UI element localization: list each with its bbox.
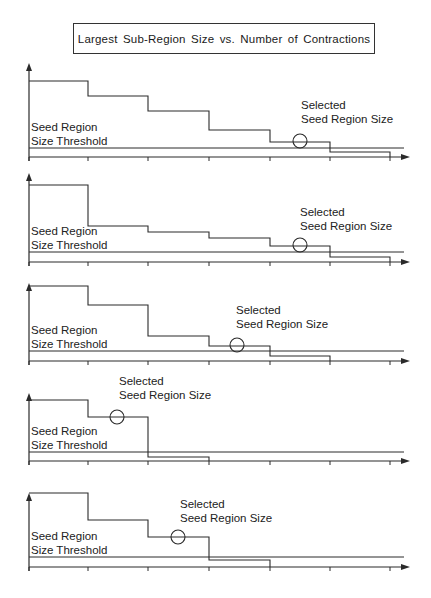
selected-point-marker xyxy=(230,338,244,352)
x-axis-arrow-icon xyxy=(401,458,410,464)
selected-label-line2: Seed Region Size xyxy=(180,512,272,524)
selected-label-line2: Seed Region Size xyxy=(300,220,392,232)
threshold-label-line2: Size Threshold xyxy=(31,239,108,251)
x-axis-arrow-icon xyxy=(401,564,410,570)
selected-label-line1: Selected xyxy=(301,99,346,111)
diagram-canvas: Seed RegionSize ThresholdSelectedSeed Re… xyxy=(0,0,431,598)
selected-label-line1: Selected xyxy=(236,304,281,316)
selected-label-line2: Seed Region Size xyxy=(119,389,211,401)
y-axis-arrow-icon xyxy=(26,173,32,181)
selected-point-marker xyxy=(293,238,307,252)
x-axis-arrow-icon xyxy=(401,358,410,364)
threshold-label-line1: Seed Region xyxy=(31,425,98,437)
selected-label-line1: Selected xyxy=(300,206,345,218)
y-axis-arrow-icon xyxy=(26,63,32,71)
x-axis-arrow-icon xyxy=(401,154,410,160)
threshold-label-line2: Size Threshold xyxy=(31,135,108,147)
selected-label-line1: Selected xyxy=(180,498,225,510)
selected-point-marker xyxy=(293,134,307,148)
threshold-label-line1: Seed Region xyxy=(31,225,98,237)
threshold-label-line2: Size Threshold xyxy=(31,544,108,556)
selected-label-line1: Selected xyxy=(119,375,164,387)
y-axis-arrow-icon xyxy=(26,493,32,501)
threshold-label-line1: Seed Region xyxy=(31,324,98,336)
threshold-label-line1: Seed Region xyxy=(31,121,98,133)
selected-label-line2: Seed Region Size xyxy=(236,318,328,330)
threshold-label-line2: Size Threshold xyxy=(31,338,108,350)
y-axis-arrow-icon xyxy=(26,283,32,291)
x-axis-arrow-icon xyxy=(401,259,410,265)
threshold-label-line2: Size Threshold xyxy=(31,439,108,451)
selected-label-line2: Seed Region Size xyxy=(301,113,393,125)
threshold-label-line1: Seed Region xyxy=(31,530,98,542)
